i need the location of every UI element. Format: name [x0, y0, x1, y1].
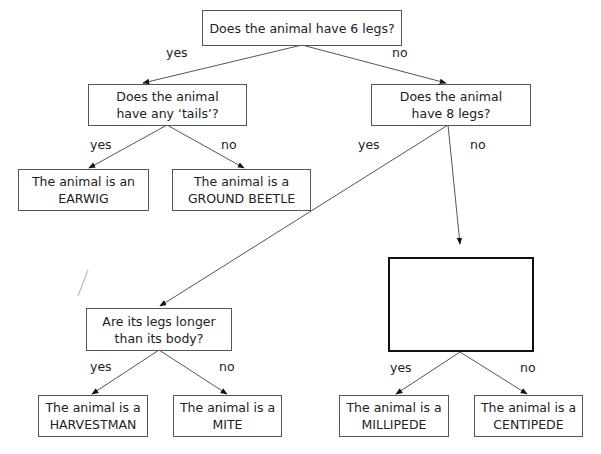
node-text-line2: CENTIPEDE [493, 416, 563, 433]
arrow-blank-no [460, 352, 527, 394]
edge-label-yes: yes [166, 45, 188, 60]
node-text-line1: Are its legs longer [102, 313, 215, 330]
question-tails: Does the animal have any ‘tails’? [88, 84, 247, 126]
result-centipede: The animal is a CENTIPEDE [474, 395, 583, 437]
node-text-line1: Does the animal [400, 88, 502, 105]
arrow-six-no [302, 45, 446, 83]
node-text-line2: HARVESTMAN [50, 416, 137, 433]
question-eight-legs: Does the animal have 8 legs? [371, 84, 531, 126]
edge-label-no: no [392, 45, 408, 60]
result-ground-beetle: The animal is a GROUND BEETLE [172, 169, 311, 211]
arrow-eight-no [448, 125, 460, 244]
node-text-line2: GROUND BEETLE [188, 190, 295, 207]
node-text-line1: The animal is a [481, 399, 576, 416]
result-millipede: The animal is a MILLIPEDE [339, 395, 449, 437]
question-legs-longer: Are its legs longer than its body? [86, 308, 232, 351]
edge-label-yes: yes [390, 360, 412, 375]
node-text: Does the animal have 6 legs? [209, 20, 394, 37]
connector-lines [0, 0, 601, 454]
node-text-line2: MILLIPEDE [361, 416, 426, 433]
node-text-line2: EARWIG [58, 190, 108, 207]
node-text-line2: MITE [212, 416, 242, 433]
node-text-line1: The animal is a [45, 399, 140, 416]
edge-label-yes: yes [358, 137, 380, 152]
node-text-line1: The animal is an [32, 173, 135, 190]
node-text-line1: Does the animal [116, 88, 218, 105]
stray-pencil-mark [78, 270, 88, 296]
blank-question-box [388, 257, 534, 352]
node-text-line1: The animal is a [180, 399, 275, 416]
node-text-line2: have 8 legs? [412, 105, 491, 122]
arrow-longer-no [159, 350, 227, 394]
node-text-line1: The animal is a [194, 173, 289, 190]
edge-label-no: no [221, 137, 237, 152]
result-mite: The animal is a MITE [173, 395, 282, 437]
edge-label-no: no [520, 360, 536, 375]
node-text-line2: have any ‘tails’? [116, 105, 218, 122]
edge-label-no: no [219, 359, 235, 374]
result-earwig: The animal is an EARWIG [18, 169, 149, 211]
edge-label-yes: yes [90, 137, 112, 152]
result-harvestman: The animal is a HARVESTMAN [38, 395, 148, 437]
question-six-legs: Does the animal have 6 legs? [202, 10, 402, 46]
node-text-line2: than its body? [115, 330, 204, 347]
edge-label-yes: yes [90, 359, 112, 374]
edge-label-no: no [470, 137, 486, 152]
node-text-line1: The animal is a [346, 399, 441, 416]
